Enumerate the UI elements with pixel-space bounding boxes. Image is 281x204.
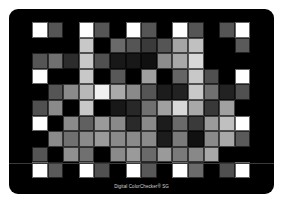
color-patch (172, 22, 188, 38)
color-patch (63, 69, 79, 85)
color-patch (126, 53, 142, 69)
color-patch (32, 147, 48, 163)
color-patch (94, 38, 110, 54)
color-patch (79, 22, 95, 38)
color-patch (126, 162, 142, 178)
color-checker-card: Digital ColorChecker® SG (9, 9, 274, 194)
color-patch (204, 147, 220, 163)
color-patch (157, 53, 173, 69)
color-patch (235, 147, 251, 163)
color-patch (94, 69, 110, 85)
color-patch (48, 53, 64, 69)
color-patch (63, 131, 79, 147)
color-patch (126, 84, 142, 100)
color-patch (188, 116, 204, 132)
color-patch (235, 22, 251, 38)
color-patch (48, 162, 64, 178)
color-patch (141, 84, 157, 100)
color-patch (204, 38, 220, 54)
color-patch (235, 38, 251, 54)
color-patch (63, 147, 79, 163)
color-patch (141, 100, 157, 116)
color-patch (219, 69, 235, 85)
color-patch (204, 116, 220, 132)
color-patch (32, 69, 48, 85)
color-patch (141, 131, 157, 147)
color-patch (110, 147, 126, 163)
color-patch (219, 38, 235, 54)
color-patch (219, 53, 235, 69)
color-patch (48, 22, 64, 38)
color-patch (204, 22, 220, 38)
color-patch (110, 38, 126, 54)
color-patch (188, 38, 204, 54)
color-patch (79, 116, 95, 132)
color-patch (172, 131, 188, 147)
color-patch (172, 147, 188, 163)
color-patch (79, 69, 95, 85)
color-patch (32, 22, 48, 38)
color-patch (126, 22, 142, 38)
color-patch (63, 22, 79, 38)
color-patch (141, 38, 157, 54)
color-patch (204, 131, 220, 147)
color-patch (110, 100, 126, 116)
color-patch (110, 116, 126, 132)
color-patch (157, 84, 173, 100)
color-patch (204, 53, 220, 69)
color-patch (204, 69, 220, 85)
color-patch (126, 38, 142, 54)
color-patch (157, 22, 173, 38)
color-patch (141, 22, 157, 38)
color-patch (172, 162, 188, 178)
divider-line (9, 163, 274, 164)
color-patch (63, 116, 79, 132)
color-patch (63, 162, 79, 178)
color-patch (94, 131, 110, 147)
color-patch (110, 53, 126, 69)
color-patch (32, 100, 48, 116)
color-patch (188, 69, 204, 85)
color-patch (172, 69, 188, 85)
color-patch (219, 22, 235, 38)
color-patch (141, 162, 157, 178)
color-patch (219, 100, 235, 116)
color-patch (32, 162, 48, 178)
color-patch (157, 69, 173, 85)
color-patch (48, 147, 64, 163)
color-patch (63, 38, 79, 54)
color-patch (79, 38, 95, 54)
color-patch (172, 100, 188, 116)
color-patch (141, 69, 157, 85)
color-patch (204, 100, 220, 116)
color-patch (94, 147, 110, 163)
color-patch (32, 116, 48, 132)
color-patch (63, 100, 79, 116)
color-patch (235, 84, 251, 100)
color-patch (63, 84, 79, 100)
color-patch (48, 69, 64, 85)
color-patch (126, 131, 142, 147)
color-patch (32, 84, 48, 100)
color-patch (48, 131, 64, 147)
color-patch (94, 53, 110, 69)
color-patch (126, 100, 142, 116)
color-patch (188, 22, 204, 38)
color-patch (235, 116, 251, 132)
color-patch (110, 131, 126, 147)
color-patch (94, 116, 110, 132)
color-patch (126, 69, 142, 85)
color-patch (188, 100, 204, 116)
color-patch (157, 116, 173, 132)
color-patch (157, 131, 173, 147)
color-patch (219, 116, 235, 132)
color-patch (141, 147, 157, 163)
color-patch (48, 84, 64, 100)
color-patch (157, 38, 173, 54)
color-patch (219, 147, 235, 163)
color-patch (79, 100, 95, 116)
color-patch (79, 131, 95, 147)
color-patch (126, 147, 142, 163)
color-patch (110, 162, 126, 178)
color-patch (188, 162, 204, 178)
